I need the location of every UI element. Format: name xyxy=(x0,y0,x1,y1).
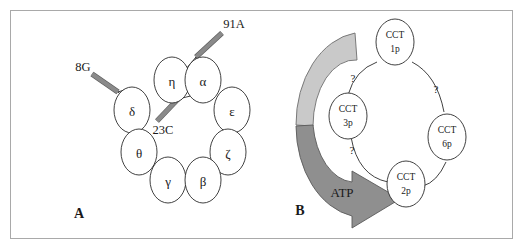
panel-label-b: B xyxy=(295,203,304,218)
question-mark-right: ? xyxy=(434,83,439,95)
cct-label-3p-line2: 3p xyxy=(343,118,353,128)
panel-label-a: A xyxy=(74,206,85,221)
cct-ellipse-3p xyxy=(329,93,367,139)
cct-label-3p-line1: CCT xyxy=(339,104,358,114)
annotation-8g: 8G xyxy=(75,60,90,74)
atp-arrow-label: ATP xyxy=(330,185,353,200)
cct-label-2p-line2: 2p xyxy=(401,186,411,196)
ring-link-1p-6p xyxy=(412,62,444,112)
subunit-label-zeta: ζ xyxy=(225,146,231,161)
annotation-91a: 91A xyxy=(223,17,245,31)
panel-b: ATP CCT 1p CCT 3p CCT 6p CCT 2p ? ? ? xyxy=(295,19,466,228)
cct-label-1p-line2: 1p xyxy=(390,44,400,54)
figure-svg: δ η α ε θ ζ γ β 91A 8G 23C A ATP xyxy=(0,0,523,249)
subunit-label-theta: θ xyxy=(136,146,142,161)
annotation-23c: 23C xyxy=(153,123,174,137)
subunit-label-gamma: γ xyxy=(164,174,171,189)
cct-label-6p-line2: 6p xyxy=(442,139,452,149)
cct-ellipse-1p xyxy=(376,19,414,65)
subunit-label-beta: β xyxy=(200,174,207,189)
cct-label-6p-line1: CCT xyxy=(438,125,457,135)
cct-ellipse-2p xyxy=(387,161,425,207)
question-mark-bottom-left: ? xyxy=(350,144,355,156)
cct-label-1p-line1: CCT xyxy=(386,30,405,40)
cct-label-2p-line1: CCT xyxy=(397,172,416,182)
rod-8g xyxy=(92,74,118,92)
subunit-label-alpha: α xyxy=(200,74,207,89)
subunit-label-epsilon: ε xyxy=(229,104,235,119)
question-mark-top-left: ? xyxy=(351,72,356,84)
atp-arrow xyxy=(296,125,400,228)
ring-link-6p-2p xyxy=(423,162,446,186)
subunit-label-delta: δ xyxy=(129,104,135,119)
cct-ellipse-6p xyxy=(428,114,466,160)
figure-container: δ η α ε θ ζ γ β 91A 8G 23C A ATP xyxy=(0,0,523,249)
subunit-label-eta: η xyxy=(169,74,176,89)
rod-91a xyxy=(196,33,222,57)
panel-a: δ η α ε θ ζ γ β 91A 8G 23C A xyxy=(74,17,250,221)
